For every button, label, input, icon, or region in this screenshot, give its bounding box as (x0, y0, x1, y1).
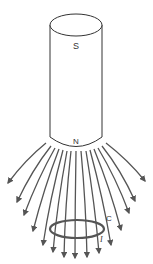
field-line (64, 151, 71, 257)
north-pole-label: N (73, 137, 79, 146)
current-label: I (99, 235, 103, 244)
loop-ring (50, 220, 104, 238)
bar-magnet: S N (50, 14, 102, 147)
magnet-top-face (50, 14, 102, 36)
magnet-field-diagram: S N C I (0, 0, 153, 264)
field-line (81, 151, 87, 257)
field-line (102, 146, 135, 201)
south-pole-label: S (73, 41, 79, 51)
field-line (106, 143, 145, 181)
field-line (75, 151, 76, 258)
field-line (33, 149, 59, 231)
current-loop: C I (50, 214, 112, 244)
field-lines (8, 143, 145, 258)
loop-label: C (106, 214, 112, 223)
